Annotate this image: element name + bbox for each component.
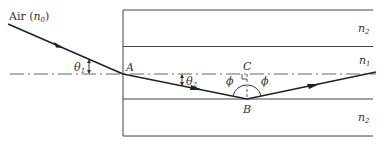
theta1-label: θ1 [74, 61, 85, 75]
phi-right-arc [248, 85, 261, 96]
point-a-label: A [125, 61, 134, 74]
phi-left-label: ϕ [226, 75, 234, 88]
theta2-label: θ2 [186, 75, 198, 89]
fiber-diagram: Air (n0) θ1 θ2 A B C ϕ ϕ n2 n1 n2 [0, 0, 388, 143]
cladding-top-index-label: n2 [358, 22, 370, 36]
right-angle-marker [242, 74, 247, 79]
phi-left-arc [233, 85, 246, 96]
theta2-arrow-up [180, 74, 184, 78]
reflected-ray-arrow [307, 84, 320, 89]
air-label: Air (n0) [8, 10, 49, 24]
cladding-bottom-index-label: n2 [358, 111, 370, 125]
phi-right-label: ϕ [261, 75, 269, 88]
point-c-label: C [243, 60, 252, 73]
core-index-label: n1 [359, 54, 371, 68]
point-b-label: B [242, 103, 251, 116]
incident-ray [8, 24, 123, 74]
theta1-arrow-down [87, 70, 91, 74]
